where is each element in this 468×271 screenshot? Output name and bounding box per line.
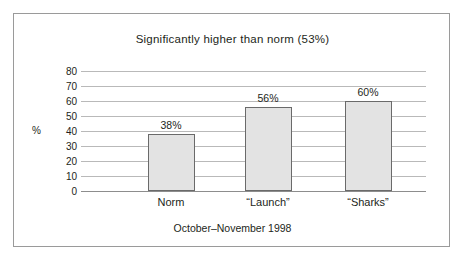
category-label-1: “Launch” xyxy=(213,196,323,208)
y-tick-label-80: 80 xyxy=(55,66,77,77)
gridline-0 xyxy=(81,191,426,192)
figure-border: Significantly higher than norm (53%) % 8… xyxy=(13,13,450,247)
bar-value-label-1: 56% xyxy=(245,92,292,104)
figure-root: Significantly higher than norm (53%) % 8… xyxy=(0,0,468,271)
bar-0 xyxy=(148,134,195,191)
bar-2 xyxy=(345,101,392,191)
y-axis-tick-labels: 80706050403020100 xyxy=(53,71,77,191)
y-tick-label-30: 30 xyxy=(55,141,77,152)
chart-caption: October–November 1998 xyxy=(14,222,451,234)
category-label-2: “Sharks” xyxy=(313,196,423,208)
y-tick-label-0: 0 xyxy=(55,186,77,197)
bar-value-label-2: 60% xyxy=(345,86,392,98)
y-tick-label-70: 70 xyxy=(55,81,77,92)
y-tick-label-50: 50 xyxy=(55,111,77,122)
plot-area: 38%56%60% xyxy=(81,71,426,191)
x-axis-category-labels: Norm“Launch”“Sharks” xyxy=(81,196,426,214)
chart-title: Significantly higher than norm (53%) xyxy=(14,33,451,45)
category-label-0: Norm xyxy=(116,196,226,208)
bar-1 xyxy=(245,107,292,191)
gridline-80 xyxy=(81,71,426,72)
y-tick-label-40: 40 xyxy=(55,126,77,137)
y-tick-label-60: 60 xyxy=(55,96,77,107)
y-axis-title: % xyxy=(32,125,41,136)
bar-value-label-0: 38% xyxy=(148,119,195,131)
y-tick-label-20: 20 xyxy=(55,156,77,167)
y-tick-label-10: 10 xyxy=(55,171,77,182)
